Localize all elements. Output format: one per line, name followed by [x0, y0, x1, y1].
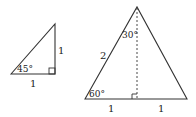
angle-60-label: 60°: [89, 89, 105, 99]
left-side-label: 2: [100, 50, 106, 61]
base-right-label: 1: [158, 103, 164, 114]
triangle-30-60-90: 30° 60° 2 1 1: [85, 7, 187, 114]
triangle-45-45-90: 45° 1 1: [11, 24, 64, 89]
special-triangles-diagram: 45° 1 1 30° 60° 2 1 1: [0, 0, 196, 117]
right-angle-marker: [132, 94, 137, 99]
right-angle-marker: [49, 68, 55, 74]
vertical-side-label: 1: [58, 45, 64, 56]
angle-45-label: 45°: [17, 64, 33, 74]
base-label: 1: [30, 78, 36, 89]
base-left-label: 1: [108, 103, 114, 114]
angle-30-label: 30°: [122, 30, 138, 40]
